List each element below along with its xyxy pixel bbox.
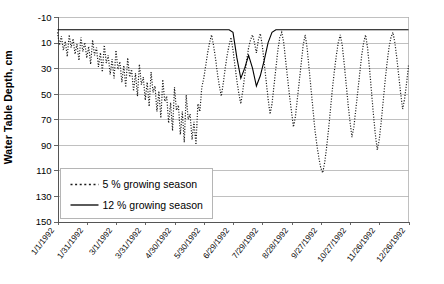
x-tick-label: 9/27/1992 [290, 226, 320, 261]
y-tick-label: 90 [41, 140, 52, 151]
x-tick-label: 12/26/1992 [375, 226, 408, 264]
y-tick-label: 130 [36, 191, 52, 202]
x-tick-label: 3/31/1992 [114, 226, 144, 261]
y-tick-label: 70 [41, 114, 52, 125]
x-tick-label: 4/30/1992 [144, 226, 174, 261]
x-tick-label: 1/31/1992 [56, 226, 86, 261]
x-tick-label: 5/30/1992 [173, 226, 203, 261]
legend: 5 % growing season12 % growing season [61, 169, 213, 219]
legend-label: 12 % growing season [103, 199, 204, 211]
y-tick-label: 30 [41, 63, 52, 74]
x-tick-label: 3/1/1992 [87, 226, 114, 257]
y-axis-title: Water Table Depth, cm [2, 50, 14, 164]
y-tick-label: 10 [41, 37, 52, 48]
x-tick-label: 10/27/1992 [316, 226, 349, 264]
x-tick-label: 1/1/1992 [29, 226, 56, 257]
legend-label: 5 % growing season [103, 178, 198, 190]
y-tick-label: 150 [36, 216, 52, 227]
y-tick-label: 50 [41, 89, 52, 100]
x-axis-ticks: 1/1/19921/31/19923/1/19923/31/19924/30/1… [29, 222, 409, 265]
x-tick-label: 7/29/1992 [231, 226, 261, 261]
x-tick-label: 6/29/1992 [202, 226, 232, 261]
chart-container: -1010305070901101301501/1/19921/31/19923… [0, 0, 444, 284]
y-tick-label: -10 [38, 12, 52, 23]
legend-box [61, 169, 213, 219]
y-tick-label: 110 [36, 165, 51, 176]
water-table-depth-chart: -1010305070901101301501/1/19921/31/19923… [0, 0, 444, 284]
x-tick-label: 11/26/1992 [345, 226, 377, 264]
x-tick-label: 8/28/1992 [261, 226, 291, 261]
